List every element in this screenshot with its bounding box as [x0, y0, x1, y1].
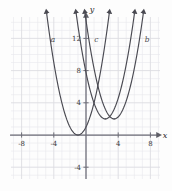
y-axis-label: y [89, 5, 95, 14]
svg-text:8: 8 [148, 140, 152, 148]
svg-text:-4: -4 [74, 164, 81, 172]
svg-text:4: 4 [77, 99, 82, 107]
svg-text:8: 8 [77, 67, 81, 75]
curve-label-b: b [145, 35, 150, 44]
x-axis-label: x [163, 131, 168, 140]
svg-text:-8: -8 [18, 140, 25, 148]
svg-text:4: 4 [116, 140, 121, 148]
curve-label-a: a [51, 35, 55, 44]
parabola-graph-figure: -8-4481284-4 acb x y [0, 0, 172, 191]
coordinate-plane-svg: -8-4481284-4 acb x y [0, 0, 172, 191]
svg-text:-4: -4 [50, 140, 57, 148]
